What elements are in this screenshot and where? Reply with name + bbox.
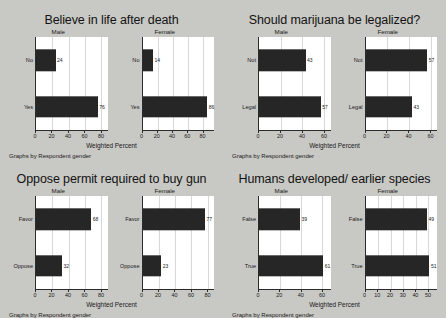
bar	[143, 255, 162, 276]
category-label: Legal	[242, 104, 256, 110]
plot-area: 5743	[258, 37, 331, 130]
panel-female: FemaleYesNo8614020406080	[116, 28, 215, 143]
x-axis: 020406080	[142, 130, 215, 143]
plot-area: 3268	[35, 196, 108, 289]
panel-title: Male	[232, 187, 331, 194]
axis-line	[258, 289, 331, 290]
axis-tick-label: 40	[298, 292, 304, 298]
bar	[259, 255, 323, 276]
plot-row: LegalNot5743	[232, 37, 331, 130]
axis-tick-label: 0	[140, 292, 143, 298]
panel-female: FemaleOpposeFavor2377020406080	[116, 187, 215, 302]
bar	[366, 50, 428, 71]
figure-note: Graphs by Respondent gender	[9, 312, 223, 318]
plot-area: 8614	[142, 37, 215, 130]
bar	[366, 209, 427, 230]
axis-tick-label: 20	[155, 292, 161, 298]
gridline	[324, 37, 325, 130]
bar	[143, 209, 206, 230]
bar	[36, 255, 62, 276]
bar-value-label: 32	[62, 263, 69, 269]
axis-tick-label: 20	[383, 133, 389, 139]
axis-tick-label: 20	[277, 133, 283, 139]
x-axis: 01020304050	[365, 289, 438, 302]
bar-value-label: 77	[205, 216, 212, 222]
axis-tick-label: 40	[299, 133, 305, 139]
bar-value-label: 57	[321, 104, 328, 110]
panel-title: Male	[232, 28, 331, 35]
category-axis: OpposeFavor	[9, 196, 35, 289]
axis-tick-label: 20	[276, 292, 282, 298]
category-axis: YesNo	[116, 37, 142, 130]
axis-line	[35, 130, 108, 131]
plot-row: LegalNot4357	[339, 37, 438, 130]
x-axis: 020406080	[35, 289, 108, 302]
x-axis-title: Weighted Percent	[223, 142, 446, 149]
category-label: No	[132, 57, 139, 63]
figure: Should marijuana be legalized?MaleLegalN…	[223, 0, 446, 159]
plot-row: TrueFalse6139	[232, 196, 331, 289]
category-label: False	[349, 216, 363, 222]
plot-area: 7624	[35, 37, 108, 130]
axis-tick-label: 40	[412, 292, 418, 298]
gridline	[101, 196, 102, 289]
figure: Oppose permit required to buy gunMaleOpp…	[0, 159, 223, 318]
category-label: Not	[354, 57, 363, 63]
panel-male: MaleLegalNot57430204060	[232, 28, 331, 143]
axis-tick-label: 20	[48, 292, 54, 298]
panel-title: Female	[339, 187, 438, 194]
plot-area: 5149	[365, 196, 438, 289]
bar	[36, 209, 91, 230]
x-axis: 020406080	[142, 289, 215, 302]
bar	[259, 96, 321, 117]
axis-line	[142, 289, 215, 290]
category-axis: YesNo	[9, 37, 35, 130]
x-axis-title: Weighted Percent	[223, 301, 446, 308]
graph-sheet: Believe in life after deathMaleYesNo7624…	[0, 0, 446, 318]
bar	[259, 50, 306, 71]
panel-title: Male	[9, 28, 108, 35]
gridline	[101, 37, 102, 130]
category-label: Legal	[349, 104, 363, 110]
axis-tick-label: 60	[184, 133, 190, 139]
axis-tick-label: 20	[154, 133, 160, 139]
category-label: True	[351, 263, 362, 269]
panel-title: Female	[116, 28, 215, 35]
figure-title: Should marijuana be legalized?	[223, 13, 446, 27]
bar-value-label: 23	[161, 263, 168, 269]
panel-container: MaleYesNo7624020406080FemaleYesNo8614020…	[0, 28, 223, 143]
figure-title: Oppose permit required to buy gun	[0, 172, 223, 186]
category-label: Oppose	[13, 263, 33, 269]
bar-value-label: 43	[306, 57, 313, 63]
plot-area: 6139	[258, 196, 331, 289]
axis-line	[365, 289, 438, 290]
axis-tick-label: 60	[188, 292, 194, 298]
bar	[366, 255, 430, 276]
figure-title: Believe in life after death	[0, 13, 223, 27]
x-axis-title: Weighted Percent	[0, 142, 223, 149]
panel-male: MaleYesNo7624020406080	[9, 28, 108, 143]
axis-tick-label: 40	[169, 133, 175, 139]
panel-container: MaleLegalNot57430204060FemaleLegalNot435…	[223, 28, 446, 143]
axis-tick-label: 40	[65, 133, 71, 139]
panel-female: FemaleTrueFalse514901020304050	[339, 187, 438, 302]
axis-tick-label: 20	[48, 133, 54, 139]
figure-note: Graphs by Respondent gender	[232, 312, 446, 318]
figure: Believe in life after deathMaleYesNo7624…	[0, 0, 223, 159]
axis-tick-label: 40	[171, 292, 177, 298]
axis-tick-label: 80	[98, 292, 104, 298]
plot-area: 2377	[142, 196, 215, 289]
plot-row: YesNo7624	[9, 37, 108, 130]
panel-male: MaleOpposeFavor3268020406080	[9, 187, 108, 302]
axis-tick-label: 80	[204, 292, 210, 298]
axis-tick-label: 40	[405, 133, 411, 139]
axis-tick-label: 60	[321, 133, 327, 139]
category-axis: TrueFalse	[232, 196, 258, 289]
axis-tick-label: 0	[257, 133, 260, 139]
plot-row: YesNo8614	[116, 37, 215, 130]
x-axis-title: Weighted Percent	[0, 301, 223, 308]
category-axis: OpposeFavor	[116, 196, 142, 289]
axis-tick-label: 0	[34, 292, 37, 298]
category-label: Favor	[19, 216, 33, 222]
axis-tick-label: 0	[363, 133, 366, 139]
